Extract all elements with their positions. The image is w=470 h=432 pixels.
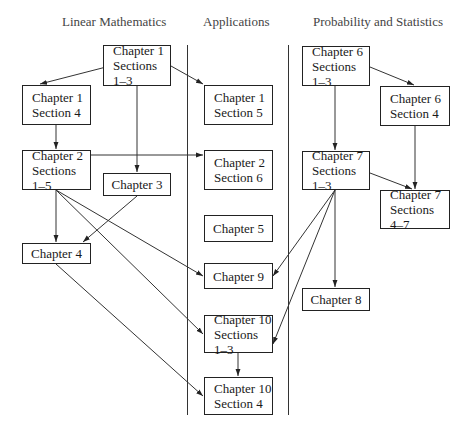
node-ch1s5: Chapter 1Section 5 bbox=[204, 85, 273, 125]
node-label-line2: Sections 1–5 bbox=[32, 163, 90, 193]
node-label-line1: Chapter 1 bbox=[32, 90, 90, 105]
node-label-line1: Chapter 3 bbox=[112, 177, 163, 192]
node-label-line1: Chapter 7 bbox=[312, 148, 369, 163]
node-label-line1: Chapter 1 bbox=[113, 43, 170, 58]
arrow-ch3-to-ch4 bbox=[83, 196, 137, 242]
node-label-line1: Chapter 7 bbox=[390, 187, 449, 202]
node-label-line1: Chapter 1 bbox=[214, 90, 272, 105]
node-ch10s4: Chapter 10Section 4 bbox=[204, 377, 273, 415]
node-label-line1: Chapter 4 bbox=[31, 246, 82, 261]
node-label-line2: Sections 1–3 bbox=[214, 327, 272, 357]
node-label-line1: Chapter 5 bbox=[213, 221, 264, 236]
arrow-ch4-to-ch10s4 bbox=[56, 264, 203, 396]
node-label-line2: Sections 1–3 bbox=[113, 58, 170, 88]
node-ch9: Chapter 9 bbox=[204, 263, 273, 289]
node-ch1s4: Chapter 1Section 4 bbox=[22, 85, 91, 125]
arrow-ch7s13-to-ch9 bbox=[273, 190, 335, 276]
node-ch6s4: Chapter 6Section 4 bbox=[380, 86, 450, 126]
node-label-line2: Section 4 bbox=[390, 106, 449, 121]
arrow-ch7s13-to-ch10s13 bbox=[273, 190, 335, 344]
node-label-line2: Section 4 bbox=[32, 105, 90, 120]
arrow-ch1s13-to-ch1s5 bbox=[171, 66, 203, 84]
node-ch1s13: Chapter 1Sections 1–3 bbox=[103, 45, 171, 86]
node-label-line2: Section 6 bbox=[214, 170, 272, 185]
node-label-line1: Chapter 2 bbox=[214, 155, 272, 170]
node-ch6s13: Chapter 6Sections 1–3 bbox=[302, 46, 370, 86]
node-label-line2: Section 4 bbox=[214, 396, 272, 411]
node-ch5: Chapter 5 bbox=[204, 215, 273, 242]
node-label-line2: Sections 4–7 bbox=[390, 202, 449, 232]
node-label-line1: Chapter 6 bbox=[312, 44, 369, 59]
arrow-ch1s13-to-ch1s4 bbox=[40, 66, 110, 84]
node-label-line1: Chapter 6 bbox=[390, 91, 449, 106]
node-label-line2: Section 5 bbox=[214, 105, 272, 120]
node-label-line1: Chapter 10 bbox=[214, 312, 272, 327]
node-label-line1: Chapter 8 bbox=[311, 292, 362, 307]
node-ch8: Chapter 8 bbox=[302, 288, 370, 311]
node-label-line1: Chapter 10 bbox=[214, 381, 272, 396]
node-ch2s6: Chapter 2Section 6 bbox=[204, 150, 273, 190]
arrow-ch6s13-to-ch6s4 bbox=[370, 67, 414, 85]
node-label-line2: Sections 1–3 bbox=[312, 163, 369, 193]
node-ch10s13: Chapter 10Sections 1–3 bbox=[204, 315, 273, 353]
node-label-line1: Chapter 2 bbox=[32, 148, 90, 163]
node-ch2s15: Chapter 2Sections 1–5 bbox=[22, 150, 91, 190]
node-label-line1: Chapter 9 bbox=[213, 269, 264, 284]
node-ch3: Chapter 3 bbox=[103, 173, 171, 196]
node-ch4: Chapter 4 bbox=[22, 243, 91, 264]
node-ch7s13: Chapter 7Sections 1–3 bbox=[302, 151, 370, 190]
node-label-line2: Sections 1–3 bbox=[312, 59, 369, 89]
node-ch7s47: Chapter 7Sections 4–7 bbox=[380, 190, 450, 229]
